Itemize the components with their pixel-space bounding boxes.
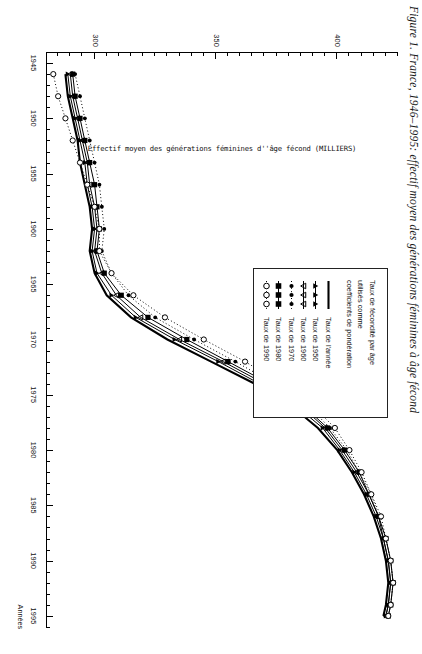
legend-item[interactable]: Taux de 1960 xyxy=(297,280,309,407)
x-tick-label: 1945 xyxy=(29,55,38,72)
legend-item-label: Taux de 1980 xyxy=(274,317,283,361)
x-axis-title: Années xyxy=(16,605,25,629)
legend-item[interactable]: Taux de 1990 xyxy=(260,280,272,407)
legend-key-icon xyxy=(323,280,334,310)
legend-header-line: utilisés comme xyxy=(355,280,367,407)
figure-caption: Figure 1. France, 1946–1995: effectif mo… xyxy=(408,6,420,646)
legend-entries: Taux de l'annéeTaux de 1950Taux de 1960T… xyxy=(260,280,334,407)
legend-item[interactable]: Taux de 1970 xyxy=(285,280,297,407)
y-tick-label: 400 xyxy=(333,29,342,47)
x-tick-label: 1950 xyxy=(29,110,38,127)
x-tick-label: 1965 xyxy=(29,276,38,293)
legend-header-line: coefficients de pondération xyxy=(344,280,356,407)
legend-key-icon xyxy=(298,280,309,310)
x-tick-label: 1975 xyxy=(29,386,38,403)
legend-header-line: Taux de fécondité par âge xyxy=(367,280,379,407)
legend-key-icon xyxy=(286,280,297,310)
figure-canvas: Figure 1. France, 1946–1995: effectif mo… xyxy=(0,0,422,654)
x-tick-label: 1985 xyxy=(29,497,38,514)
x-tick xyxy=(46,627,50,628)
x-tick-label: 1955 xyxy=(29,165,38,182)
legend-item-label: Taux de 1950 xyxy=(311,317,320,361)
legend-key-icon xyxy=(261,280,272,310)
x-tick-label: 1995 xyxy=(29,608,38,625)
legend-item-label: Taux de l'année xyxy=(324,317,333,369)
x-tick-label: 1990 xyxy=(29,552,38,569)
y-tick-label: 350 xyxy=(211,29,220,47)
legend-item[interactable]: Taux de 1980 xyxy=(273,280,285,407)
legend-item-label: Taux de 1970 xyxy=(287,317,296,361)
legend-key-icon xyxy=(310,280,321,310)
legend-box: Taux de fécondité par âgeutilisés commec… xyxy=(253,268,388,418)
y-tick-label: 300 xyxy=(90,29,99,47)
y-axis-title: Effectif moyen des générations féminines… xyxy=(88,144,356,153)
x-tick-label: 1980 xyxy=(29,442,38,459)
legend-item-label: Taux de 1990 xyxy=(262,317,271,361)
legend-item-label: Taux de 1960 xyxy=(299,317,308,361)
legend-key-icon xyxy=(273,280,284,310)
x-tick-label: 1960 xyxy=(29,221,38,238)
legend-item[interactable]: Taux de l'année xyxy=(322,280,334,407)
legend-item[interactable]: Taux de 1950 xyxy=(310,280,322,407)
x-tick-label: 1970 xyxy=(29,331,38,348)
legend-header: Taux de fécondité par âgeutilisés commec… xyxy=(344,280,379,407)
